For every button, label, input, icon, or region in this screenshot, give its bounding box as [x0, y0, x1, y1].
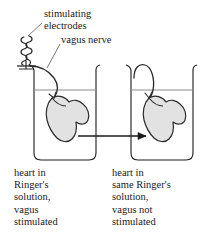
- electrodes-leader-line: [28, 23, 42, 36]
- solution-transfer-arrow: [138, 133, 146, 140]
- left-heart-body: [46, 96, 89, 141]
- electrode-coil-right: [26, 36, 32, 65]
- stimulating-electrodes-label: stimulating electrodes: [44, 8, 91, 31]
- vagus-leader-line: [47, 44, 60, 68]
- left-heart: [46, 96, 89, 141]
- vagus-nerve-label: vagus nerve: [61, 34, 111, 46]
- stimulating-electrode-coil: [17, 36, 36, 69]
- right-heart-body: [143, 96, 186, 141]
- electrodes-label-line2: electrodes: [44, 20, 91, 32]
- vagus-experiment-figure: stimulating electrodes vagus nerve heart…: [0, 0, 203, 235]
- right-cannula-tube: [134, 65, 154, 98]
- right-beaker-rim-left: [126, 65, 131, 70]
- right-cannula: [134, 65, 154, 98]
- left-beaker-rim-right: [96, 65, 100, 70]
- solution-transfer-tube: [78, 133, 146, 140]
- right-beaker-rim-right: [193, 65, 197, 70]
- right-heart: [143, 96, 186, 141]
- electrode-coil-left: [21, 37, 27, 65]
- left-beaker-caption: heart in Ringer's solution, vagus stimul…: [14, 167, 58, 228]
- electrodes-label-line1: stimulating: [44, 8, 91, 20]
- right-beaker-caption: heart in same Ringer's solution, vagus n…: [112, 167, 171, 228]
